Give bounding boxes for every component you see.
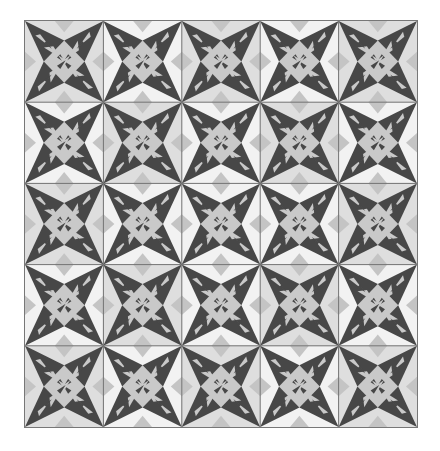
quilt-block: [25, 21, 103, 102]
quilt-block: [260, 346, 338, 427]
quilt-block: [182, 346, 260, 427]
quilt-block: [182, 102, 260, 183]
quilt-block: [25, 265, 103, 346]
quilt-block: [182, 21, 260, 102]
quilt-block: [339, 21, 417, 102]
quilt-block: [103, 346, 181, 427]
quilt-block: [260, 265, 338, 346]
quilt-block: [339, 102, 417, 183]
quilt-block: [25, 102, 103, 183]
quilt-block: [103, 183, 181, 264]
quilt-block: [260, 21, 338, 102]
quilt-block: [182, 265, 260, 346]
quilt-pattern: [25, 21, 417, 427]
quilt-block: [25, 183, 103, 264]
quilt-block: [103, 265, 181, 346]
quilt-block: [339, 265, 417, 346]
quilt-block: [103, 102, 181, 183]
quilt-block: [182, 183, 260, 264]
quilt-block: [339, 346, 417, 427]
quilt-block: [25, 346, 103, 427]
quilt-block: [339, 183, 417, 264]
quilt-block: [103, 21, 181, 102]
quilt-block: [260, 183, 338, 264]
quilt-image: [24, 20, 418, 428]
quilt-block: [260, 102, 338, 183]
